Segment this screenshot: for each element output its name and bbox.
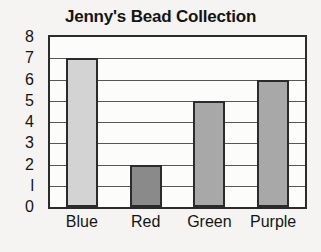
y-tick-label: 2	[25, 157, 34, 173]
x-tick-label-blue: Blue	[66, 212, 98, 232]
plot-area	[48, 35, 307, 209]
y-tick-label: 8	[25, 29, 34, 45]
y-tick-label: 5	[25, 93, 34, 109]
x-axis: BlueRedGreenPurple	[48, 212, 307, 238]
y-axis: 0l2345678	[0, 35, 44, 209]
bar-chart: Jenny's Bead Collection 0l2345678 BlueRe…	[0, 0, 321, 252]
plot-inner	[50, 37, 305, 207]
y-tick-label: 4	[25, 114, 34, 130]
chart-title: Jenny's Bead Collection	[0, 7, 321, 27]
x-tick-label-red: Red	[131, 212, 160, 232]
y-tick-label: 7	[25, 50, 34, 66]
bar-purple	[257, 80, 289, 208]
x-tick-label-purple: Purple	[250, 212, 296, 232]
bar-green	[193, 101, 225, 207]
y-tick-label: l	[30, 178, 34, 194]
y-tick-label: 6	[25, 72, 34, 88]
bar-red	[130, 165, 162, 208]
y-tick-label: 3	[25, 135, 34, 151]
x-tick-label-green: Green	[187, 212, 231, 232]
bar-blue	[66, 58, 98, 207]
y-tick-label: 0	[25, 199, 34, 215]
